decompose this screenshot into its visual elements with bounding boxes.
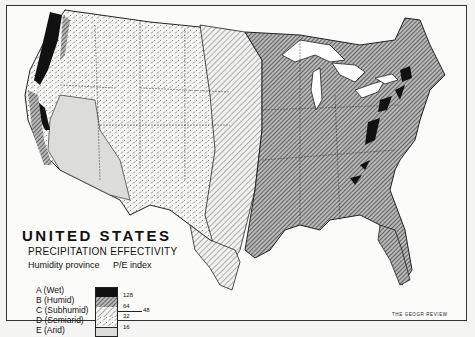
index-tick-64: 64	[123, 303, 130, 309]
swatch-arid	[95, 327, 118, 337]
legend-header-index: P/E index	[113, 260, 152, 270]
index-48-leader-line	[118, 311, 142, 312]
legend-swatches	[95, 287, 118, 337]
index-tick-128: 128	[123, 292, 133, 298]
index-tick-32: 32	[123, 313, 130, 319]
map-legend: UNITED STATES PRECIPITATION EFFECTIVITY …	[8, 227, 178, 270]
swatch-humid	[95, 297, 118, 307]
legend-province-list: A (Wet) B (Humid) C (Subhumid) D (Semiar…	[36, 285, 88, 335]
index-tick-48: 48	[143, 307, 150, 313]
humid-east-region	[245, 18, 445, 285]
swatch-wet	[95, 287, 118, 297]
swatch-subhumid	[95, 307, 118, 317]
credit-text: THE GEOGR REVIEW	[392, 312, 448, 317]
legend-header-province: Humidity province	[28, 260, 113, 270]
legend-item-semiarid: D (Semiarid)	[36, 315, 88, 325]
legend-item-arid: E (Arid)	[36, 325, 88, 335]
legend-item-wet: A (Wet)	[36, 285, 88, 295]
map-subtitle: PRECIPITATION EFFECTIVITY	[28, 246, 178, 257]
swatch-semiarid	[95, 317, 118, 327]
legend-header: Humidity province P/E index	[28, 260, 178, 270]
legend-item-subhumid: C (Subhumid)	[36, 305, 88, 315]
legend-item-humid: B (Humid)	[36, 295, 88, 305]
map-title: UNITED STATES	[22, 227, 178, 244]
index-tick-16: 16	[123, 324, 130, 330]
